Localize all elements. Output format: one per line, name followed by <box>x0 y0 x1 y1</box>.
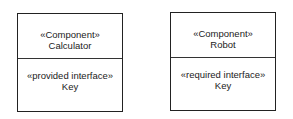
interface-compartment: «required interface» Key <box>171 57 275 110</box>
component-header: «Component» Calculator <box>18 14 122 59</box>
interface-name: Key <box>18 81 122 92</box>
interface-stereotype: «required interface» <box>171 69 275 80</box>
component-name: Robot <box>171 39 275 50</box>
component-name: Calculator <box>18 40 122 51</box>
component-robot: «Component» Robot «required interface» K… <box>170 12 276 111</box>
component-header: «Component» Robot <box>171 13 275 58</box>
interface-compartment: «provided interface» Key <box>18 58 122 111</box>
interface-name: Key <box>171 80 275 91</box>
component-stereotype: «Component» <box>171 28 275 39</box>
component-stereotype: «Component» <box>18 29 122 40</box>
interface-stereotype: «provided interface» <box>18 70 122 81</box>
component-calculator: «Component» Calculator «provided interfa… <box>17 13 123 112</box>
